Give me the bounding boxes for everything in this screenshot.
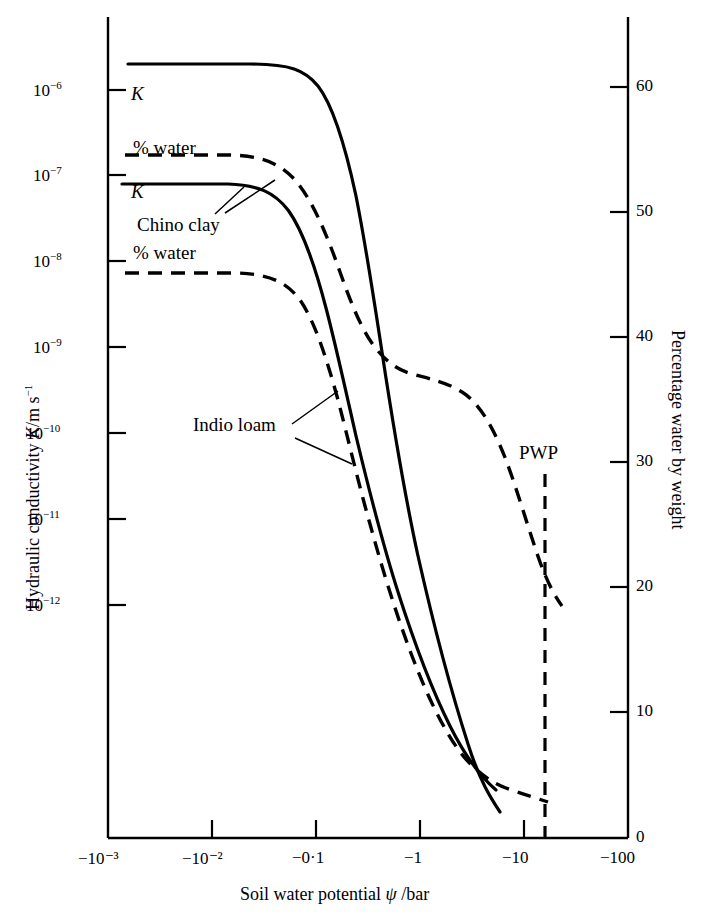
y-tick-exp-1e-12: −12 bbox=[43, 594, 60, 606]
y-axis-title: Hydraulic conductivity K/m s−1 bbox=[22, 385, 44, 610]
y-tick-label-1e-9: 10−9 bbox=[33, 336, 62, 358]
x-axis-title-pre: Soil water potential bbox=[240, 884, 381, 904]
y-axis-title-sup: −1 bbox=[22, 385, 34, 397]
y-tick-exp-1e-11: −11 bbox=[43, 508, 60, 520]
y2-tick-label-40: 40 bbox=[636, 326, 653, 346]
x-tick-label-100: −100 bbox=[600, 848, 635, 868]
y-tick-exp-1e-10: −10 bbox=[43, 422, 60, 434]
indio-loam-leader-lines bbox=[292, 391, 352, 464]
indio-loam-k-label: K bbox=[131, 181, 144, 203]
x-tick-label-1e-3: −10⁻³ bbox=[78, 848, 119, 869]
chino-clay-water-text: % water bbox=[133, 137, 196, 158]
curve-indio-loam-k bbox=[122, 184, 496, 790]
y-tick-label-1e-8: 10−8 bbox=[33, 250, 62, 272]
y-tick-exp-1e-9: −9 bbox=[50, 336, 62, 348]
x-axis-title-post: /bar bbox=[401, 884, 429, 904]
indio-loam-water-text: % water bbox=[133, 242, 196, 263]
y-axis-title-symbol: K bbox=[23, 427, 43, 439]
y-axis-right-ticks bbox=[610, 87, 628, 712]
y-axis-title-pre: Hydraulic conductivity bbox=[23, 444, 43, 610]
y2-tick-label-20: 20 bbox=[636, 576, 653, 596]
chino-clay-k-label: K bbox=[131, 83, 144, 105]
y2-axis-title: Percentage water by weight bbox=[667, 330, 688, 529]
x-axis-title: Soil water potential ψ /bar bbox=[240, 884, 429, 905]
chino-clay-label: Chino clay bbox=[137, 214, 220, 236]
y2-tick-label-10: 10 bbox=[636, 701, 653, 721]
y-axis-title-post: /m s bbox=[23, 397, 43, 428]
x-tick-label-0p1: −0·1 bbox=[292, 848, 324, 868]
y-axis-left-ticks bbox=[108, 90, 126, 605]
y2-tick-label-50: 50 bbox=[636, 201, 653, 221]
x-axis-ticks bbox=[212, 820, 524, 838]
y-tick-label-1e-6: 10−6 bbox=[33, 79, 62, 101]
pwp-label: PWP bbox=[519, 442, 558, 464]
y-tick-exp-1e-7: −7 bbox=[50, 164, 62, 176]
y-tick-exp-1e-8: −8 bbox=[50, 250, 62, 262]
indio-loam-label: Indio loam bbox=[193, 414, 276, 436]
x-tick-label-1e-2: −10⁻² bbox=[182, 848, 223, 869]
y-tick-exp-1e-6: −6 bbox=[50, 79, 62, 91]
y2-tick-label-60: 60 bbox=[636, 76, 653, 96]
chino-clay-water-label: % water bbox=[133, 137, 196, 159]
indio-loam-water-label: % water bbox=[133, 242, 196, 264]
y-tick-label-1e-7: 10−7 bbox=[33, 164, 62, 186]
y2-tick-label-30: 30 bbox=[636, 451, 653, 471]
indio-loam-leader-2 bbox=[295, 438, 352, 464]
indio-loam-leader-1 bbox=[292, 391, 338, 424]
curve-chino-clay-k bbox=[128, 64, 500, 812]
chart-figure bbox=[0, 0, 705, 918]
y2-tick-label-0: 0 bbox=[636, 827, 645, 847]
x-axis-title-symbol: ψ bbox=[385, 884, 396, 904]
x-tick-label-10: −10 bbox=[502, 848, 529, 868]
x-tick-label-1: −1 bbox=[404, 848, 422, 868]
